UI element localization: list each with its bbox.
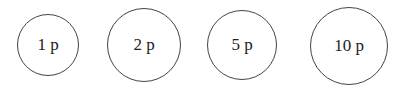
coin-10p: 10 p <box>310 7 388 85</box>
coin-label: 5 p <box>231 35 252 55</box>
coin-2p: 2 p <box>107 8 181 82</box>
coin-label: 2 p <box>133 35 154 55</box>
coin-5p: 5 p <box>207 10 277 80</box>
coin-1p: 1 p <box>17 14 79 76</box>
coin-label: 1 p <box>37 35 58 55</box>
coin-label: 10 p <box>334 36 364 56</box>
